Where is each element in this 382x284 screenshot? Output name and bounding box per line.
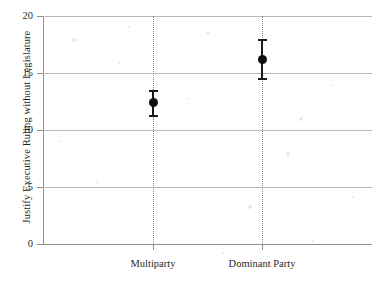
gridline [43, 16, 372, 17]
y-axis-tick [37, 16, 43, 17]
texture-speck [330, 84, 332, 86]
y-axis-tick [37, 187, 43, 188]
y-axis-tick-label: 5 [5, 182, 33, 192]
texture-speck [312, 240, 314, 242]
gridline [43, 73, 372, 74]
texture-speck [299, 117, 303, 121]
texture-speck [248, 205, 252, 209]
x-axis-tick [153, 245, 154, 250]
texture-speck [206, 31, 210, 35]
x-axis-label-multiparty: Multiparty [93, 258, 213, 270]
y-axis-tick-label: 15 [5, 68, 33, 78]
texture-speck [118, 62, 120, 64]
texture-speck [128, 26, 130, 28]
error-bar-cap-upper [258, 39, 267, 41]
gridline [43, 187, 372, 188]
texture-speck [58, 140, 60, 142]
gridline [43, 130, 372, 131]
reference-line-multiparty [153, 16, 155, 244]
y-axis-tick [37, 130, 43, 131]
x-axis-tick [262, 245, 263, 250]
y-axis-tick [37, 73, 43, 74]
y-axis-tick-label: 20 [5, 11, 33, 21]
chart-figure: Justify Executive Ruling without Legisla… [0, 0, 382, 284]
error-bar-cap-lower [149, 115, 158, 117]
texture-speck [152, 232, 154, 234]
y-axis-tick-label: 0 [5, 239, 33, 249]
texture-speck [96, 181, 98, 183]
texture-speck [188, 98, 190, 100]
texture-speck [72, 38, 76, 42]
gridline [43, 244, 372, 245]
texture-speck [286, 152, 290, 156]
data-point-multiparty [149, 98, 158, 107]
y-axis-tick [37, 244, 43, 245]
y-axis-tick-label: 10 [5, 125, 33, 135]
error-bar-cap-upper [149, 90, 158, 92]
data-point-dominant-party [258, 55, 267, 64]
texture-speck [352, 196, 354, 198]
texture-speck [222, 252, 224, 254]
error-bar-cap-lower [258, 78, 267, 80]
x-axis-label-dominant-party: Dominant Party [202, 258, 322, 270]
